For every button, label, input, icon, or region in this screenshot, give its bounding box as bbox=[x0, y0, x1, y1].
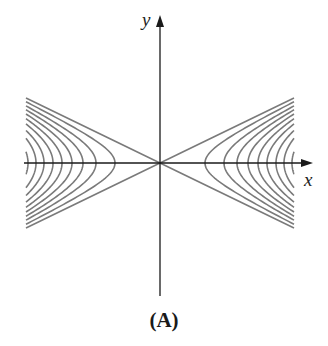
x-axis-label: x bbox=[304, 170, 312, 189]
y-axis-label: y bbox=[142, 10, 150, 29]
plot-canvas bbox=[0, 0, 328, 346]
y-axis-arrow-icon bbox=[156, 15, 164, 27]
hyperbola-level-curves-figure: y x (A) bbox=[0, 0, 328, 346]
figure-caption: (A) bbox=[0, 308, 328, 333]
axes bbox=[24, 15, 313, 296]
x-axis-arrow-icon bbox=[301, 159, 313, 167]
